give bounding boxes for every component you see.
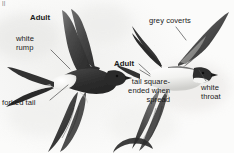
label-white-rump: white rump: [16, 34, 34, 52]
leader-white-rump: [51, 50, 70, 69]
leader-forked-tail: [50, 85, 68, 100]
field-guide-plate: ll: [0, 0, 234, 153]
label-adult-left: Adult: [30, 13, 50, 22]
label-grey-coverts: grey coverts: [149, 16, 191, 25]
label-white-throat: white throat: [201, 83, 221, 101]
label-tail-square-ended: tail square- ended when spread: [96, 77, 170, 105]
leader-grey-coverts: [176, 27, 186, 40]
label-adult-right: Adult: [114, 59, 134, 68]
leader-white-throat: [199, 70, 206, 81]
label-forked-tail: forked tail: [2, 98, 35, 107]
